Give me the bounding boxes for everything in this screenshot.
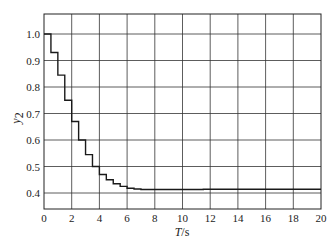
grid-lines xyxy=(44,14,321,209)
step-response-chart: 02468101214161820 0.40.50.60.70.80.91.0 … xyxy=(0,0,335,247)
x-tick-label: 4 xyxy=(97,212,103,224)
x-axis-ticks: 02468101214161820 xyxy=(41,212,327,224)
x-tick-label: 2 xyxy=(69,212,75,224)
x-tick-label: 10 xyxy=(177,212,189,224)
y-tick-label: 0.9 xyxy=(26,55,40,67)
y-tick-label: 1.0 xyxy=(26,28,40,40)
y-axis-ticks: 0.40.50.60.70.80.91.0 xyxy=(26,28,40,199)
y-tick-label: 0.8 xyxy=(26,81,40,93)
x-tick-label: 12 xyxy=(205,212,216,224)
y-tick-label: 0.7 xyxy=(26,108,40,120)
x-tick-label: 20 xyxy=(316,212,328,224)
y-tick-label: 0.4 xyxy=(26,187,40,199)
x-tick-label: 14 xyxy=(232,212,244,224)
x-tick-label: 0 xyxy=(41,212,47,224)
x-axis-label: T/s xyxy=(175,225,190,239)
x-tick-label: 18 xyxy=(288,212,300,224)
x-tick-label: 8 xyxy=(152,212,158,224)
x-tick-label: 16 xyxy=(260,212,272,224)
x-tick-label: 6 xyxy=(124,212,130,224)
y-axis-label: y2 xyxy=(9,112,26,124)
y-tick-label: 0.6 xyxy=(26,134,40,146)
y-tick-label: 0.5 xyxy=(26,161,40,173)
